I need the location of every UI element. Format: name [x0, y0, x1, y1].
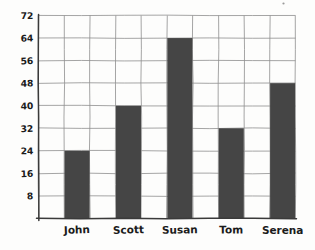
x-label-serena: Serena [262, 224, 304, 236]
gridline-x-5 [167, 16, 168, 219]
gridline-x-6 [192, 16, 193, 219]
bar-susan[interactable] [167, 38, 192, 218]
y-tick-24: 24 [21, 145, 34, 156]
gridline-x-9 [270, 16, 271, 219]
chart-figure: 81624324048566472 JohnScottSusanTomSeren… [0, 0, 315, 250]
y-tick-32: 32 [20, 123, 33, 135]
gridline-x-4 [141, 16, 142, 219]
x-label-susan: Susan [162, 223, 198, 236]
y-tick-16: 16 [20, 168, 33, 179]
x-label-scott: Scott [113, 223, 144, 236]
gridline-x-8 [244, 16, 245, 219]
y-tick-64: 64 [20, 32, 33, 43]
y-axis-line [38, 15, 39, 221]
x-axis-category-labels: JohnScottSusanTomSerena [63, 223, 304, 236]
paper-speck-mark [282, 3, 284, 5]
bar-tom[interactable] [219, 128, 244, 218]
bar-scott[interactable] [116, 106, 141, 219]
y-tick-48: 48 [21, 77, 34, 88]
gridline-x-3 [115, 16, 116, 219]
x-axis-line [37, 218, 297, 219]
y-tick-72: 72 [21, 10, 34, 21]
y-tick-40: 40 [20, 100, 33, 111]
y-tick-56: 56 [20, 55, 33, 67]
y-tick-8: 8 [27, 190, 34, 201]
x-label-tom: Tom [219, 223, 243, 235]
gridline-x-1 [64, 16, 65, 219]
x-label-john: John [63, 223, 90, 236]
bar-chart-svg: 81624324048566472 JohnScottSusanTomSeren… [0, 0, 315, 250]
y-axis-tick-labels: 81624324048566472 [20, 10, 33, 202]
bar-serena[interactable] [270, 83, 295, 218]
bar-john[interactable] [65, 151, 90, 219]
